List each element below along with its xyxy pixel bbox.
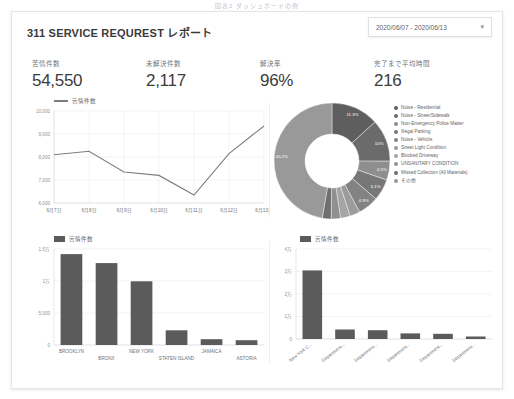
legend-item-label: Noise - Street/Sidewalk [401,113,450,119]
legend-item-label: Blocked Driveway [401,153,438,159]
donut-legend-item[interactable]: Noise - Residential [394,105,502,111]
svg-text:6月11日: 6月11日 [185,208,202,214]
svg-text:9,000: 9,000 [39,132,51,137]
donut-legend-item[interactable]: Blocked Driveway [394,153,502,159]
kpi-unresolved: 未解決件数 2,117 [146,58,260,91]
legend-item-label: その他 [401,178,416,184]
svg-text:BROOKLYN: BROOKLYN [59,349,84,354]
kpi-complaints: 苦情件数 54,550 [32,58,146,91]
legend-color-dot [394,154,398,158]
legend-item-label: UNSANITARY CONDITION [401,161,458,167]
svg-text:JAMAICA: JAMAICA [202,349,223,354]
svg-text:Department...: Department... [386,342,411,363]
svg-text:4.9%: 4.9% [359,198,369,203]
svg-text:1.5万: 1.5万 [39,247,50,253]
kpi-resolution-rate: 解決率 96% [260,58,374,91]
kpi-label: 苦情件数 [32,58,146,68]
legend-color-dot [394,106,398,110]
svg-text:Department...: Department... [321,342,346,363]
donut-legend-item[interactable]: Illegal Parking [394,129,502,135]
svg-text:0: 0 [289,337,292,342]
legend-item-label: Noise - Residential [401,105,440,111]
line-chart-panel: 苦情件数 6,0007,0008,0009,00010,0006月7日6月8日6… [18,97,270,223]
legend-item-label: Missed Collection (All Materials) [401,170,468,176]
donut-legend: Noise - ResidentialNoise - Street/Sidewa… [394,97,502,223]
svg-text:BRONX: BRONX [98,356,114,361]
legend-color-dot [394,130,398,134]
legend-color-dot [394,162,398,166]
svg-text:7,000: 7,000 [39,178,51,183]
dashboard-header: 311 SERVICE REQUREST レポート 2020/06/07 - 2… [12,12,502,50]
svg-text:Department...: Department... [419,342,444,363]
kpi-label: 完了まで平均時間 [374,58,488,68]
kpi-label: 未解決件数 [146,58,260,68]
donut-chart: 11.3%10%4.5%5.1%4.9%40.2% [270,99,394,223]
date-range-selector[interactable]: 2020/06/07 - 2020/06/13 ▾ [368,17,492,37]
legend-item-label: Street Light Condition [401,145,446,151]
kpi-value: 2,117 [146,71,260,91]
kpi-value: 216 [374,71,488,91]
svg-text:5.1%: 5.1% [371,184,381,189]
svg-text:Department...: Department... [353,342,378,363]
svg-text:6月9日: 6月9日 [116,208,131,214]
legend-color-dot [394,114,398,118]
svg-text:STATEN ISLAND: STATEN ISLAND [159,356,195,361]
legend-color-dot [394,171,398,175]
svg-text:ASTORIA: ASTORIA [236,356,257,361]
legend-color-dot [394,138,398,142]
svg-text:6,000: 6,000 [39,201,51,206]
svg-text:8,000: 8,000 [39,155,51,160]
svg-text:New York C...: New York C... [288,342,313,363]
legend-color-dot [394,122,398,126]
line-chart: 6,0007,0008,0009,00010,0006月7日6月8日6月9日6月… [18,105,270,221]
svg-text:6月12日: 6月12日 [220,208,238,214]
svg-text:3万: 3万 [284,269,292,275]
svg-text:6月8日: 6月8日 [81,208,96,214]
bar-chart-agency-panel: 苦情件数 01万2万3万4万New York C...Department...… [270,235,498,369]
svg-text:Department...: Department... [451,342,476,363]
page-title: 311 SERVICE REQUREST レポート [27,24,212,40]
kpi-avg-completion-time: 完了まで平均時間 216 [374,58,488,91]
svg-text:6月13日: 6月13日 [255,208,270,214]
chevron-down-icon: ▾ [480,23,484,31]
svg-text:4万: 4万 [284,247,292,253]
kpi-value: 96% [260,71,374,91]
donut-chart-panel: 11.3%10%4.5%5.1%4.9%40.2% Noise - Reside… [270,97,502,223]
svg-text:10%: 10% [375,141,384,146]
legend-swatch [300,236,311,242]
legend-line-marker [54,100,68,101]
donut-legend-item[interactable]: Non-Emergency Police Matter [394,121,502,127]
legend-label: 苦情件数 [69,235,93,243]
kpi-value: 54,550 [32,71,146,91]
legend-color-dot [394,146,398,150]
donut-legend-item[interactable]: その他 [394,178,502,184]
svg-text:1万: 1万 [284,314,292,320]
donut-legend-item[interactable]: Street Light Condition [394,145,502,151]
legend-label: 苦情件数 [72,97,96,105]
svg-text:6月7日: 6月7日 [46,208,61,214]
dashboard-card: 311 SERVICE REQUREST レポート 2020/06/07 - 2… [11,11,503,389]
line-chart-legend: 苦情件数 [54,97,270,105]
bar-chart-borough-legend: 苦情件数 [54,235,270,243]
bar-chart-borough: 05,0001万1.5万BROOKLYNBRONXNEW YORKSTATEN … [18,243,270,369]
bar-chart-agency: 01万2万3万4万New York C...Department...Depar… [270,243,498,369]
legend-color-dot [394,179,398,183]
bar-chart-borough-panel: 苦情件数 05,0001万1.5万BROOKLYNBRONXNEW YORKST… [18,235,270,369]
svg-text:5,000: 5,000 [39,311,51,316]
donut-legend-item[interactable]: Missed Collection (All Materials) [394,170,502,176]
legend-swatch [54,236,65,242]
donut-legend-item[interactable]: UNSANITARY CONDITION [394,161,502,167]
charts-row-bottom: 苦情件数 05,0001万1.5万BROOKLYNBRONXNEW YORKST… [12,235,502,369]
legend-item-label: Illegal Parking [401,129,430,135]
svg-text:4.5%: 4.5% [377,167,387,172]
legend-label: 苦情件数 [315,235,339,243]
donut-legend-item[interactable]: Noise - Vehicle [394,137,502,143]
svg-text:2万: 2万 [284,292,292,298]
svg-text:1万: 1万 [42,279,50,285]
date-range-value: 2020/06/07 - 2020/06/13 [376,24,480,31]
bar-chart-agency-legend: 苦情件数 [300,235,498,243]
svg-text:40.2%: 40.2% [275,154,288,159]
donut-legend-item[interactable]: Noise - Street/Sidewalk [394,113,502,119]
figure-caption: 図表2 ダッシュボードの例 [0,1,514,10]
svg-text:11.3%: 11.3% [346,112,358,117]
